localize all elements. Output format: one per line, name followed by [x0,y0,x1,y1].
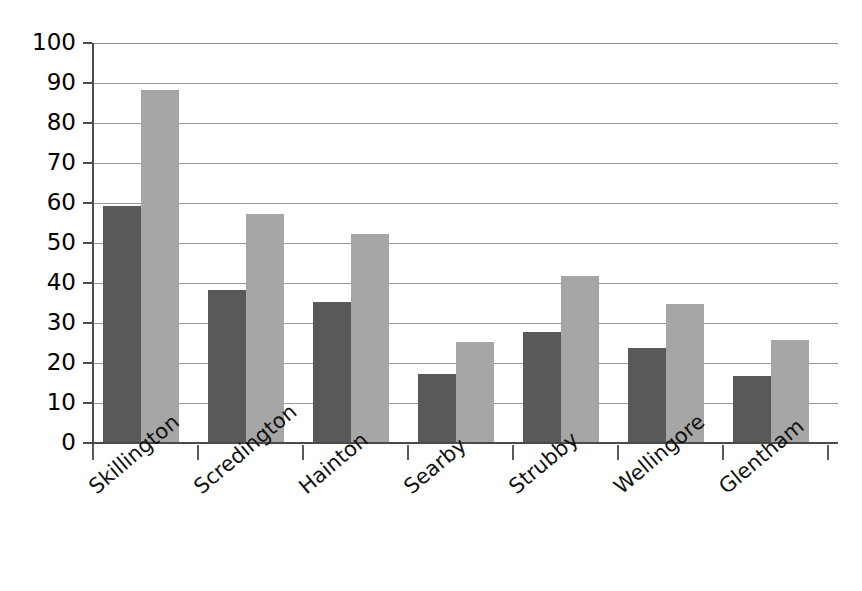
y-axis-tick [83,82,92,84]
x-axis-separator [617,445,619,460]
x-axis-separator [407,445,409,460]
bar-skillington-series1 [103,206,141,442]
gridline-60 [92,203,838,204]
bar-hainton-series2 [351,234,389,442]
y-axis-tick-label: 20 [0,351,76,374]
bar-strubby-series1 [523,332,561,442]
gridline-40 [92,283,838,284]
y-axis-tick [83,282,92,284]
x-axis-separator [92,445,94,460]
bar-scredington-series1 [208,290,246,442]
bar-chart: 0102030405060708090100 SkillingtonScredi… [0,0,862,591]
y-axis-tick-label: 60 [0,191,76,214]
y-axis-tick-label: 30 [0,311,76,334]
gridline-50 [92,243,838,244]
x-axis-separator [722,445,724,460]
bar-skillington-series2 [141,90,179,442]
y-axis-tick-label: 70 [0,151,76,174]
y-axis-tick [83,362,92,364]
plot-area [92,43,838,443]
bar-wellingore-series1 [628,348,666,442]
gridline-100 [92,43,838,44]
x-axis-separator [197,445,199,460]
y-axis-tick [83,162,92,164]
y-axis-tick [83,42,92,44]
x-axis-label-searby: Searby [400,435,470,498]
y-axis-tick [83,322,92,324]
bar-strubby-series2 [561,276,599,442]
gridline-30 [92,323,838,324]
bar-hainton-series1 [313,302,351,442]
gridline-90 [92,83,838,84]
y-axis-tick-label: 100 [0,31,76,54]
y-axis-tick-label: 40 [0,271,76,294]
x-axis-separator [827,445,829,460]
y-axis-tick-label: 50 [0,231,76,254]
x-axis-separator [302,445,304,460]
y-axis-tick [83,242,92,244]
bar-searby-series1 [418,374,456,442]
y-axis-tick [83,122,92,124]
gridline-80 [92,123,838,124]
y-axis-tick-label: 0 [0,431,76,454]
y-axis-tick-label: 80 [0,111,76,134]
y-axis-tick-label: 90 [0,71,76,94]
y-axis-tick [83,442,92,444]
axis-y-line [92,43,94,445]
y-axis-tick [83,202,92,204]
y-axis-tick [83,402,92,404]
bar-searby-series2 [456,342,494,442]
bar-glentham-series1 [733,376,771,442]
x-axis-separator [512,445,514,460]
gridline-70 [92,163,838,164]
y-axis-tick-label: 10 [0,391,76,414]
